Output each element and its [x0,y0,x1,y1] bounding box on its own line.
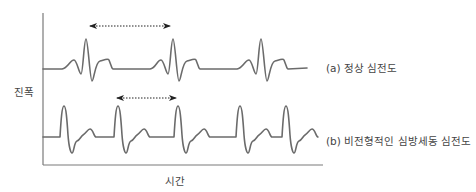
trace-label-afib: (b) 비전형적인 심방세동 심전도 [326,133,471,148]
x-axis-label: 시간 [165,173,185,188]
ecg-diagram [0,0,476,192]
ecg-trace-afib [43,106,318,153]
ecg-trace-normal [43,39,307,81]
trace-label-normal: (a) 정상 심전도 [326,60,397,75]
y-axis-label: 진폭 [14,84,34,99]
